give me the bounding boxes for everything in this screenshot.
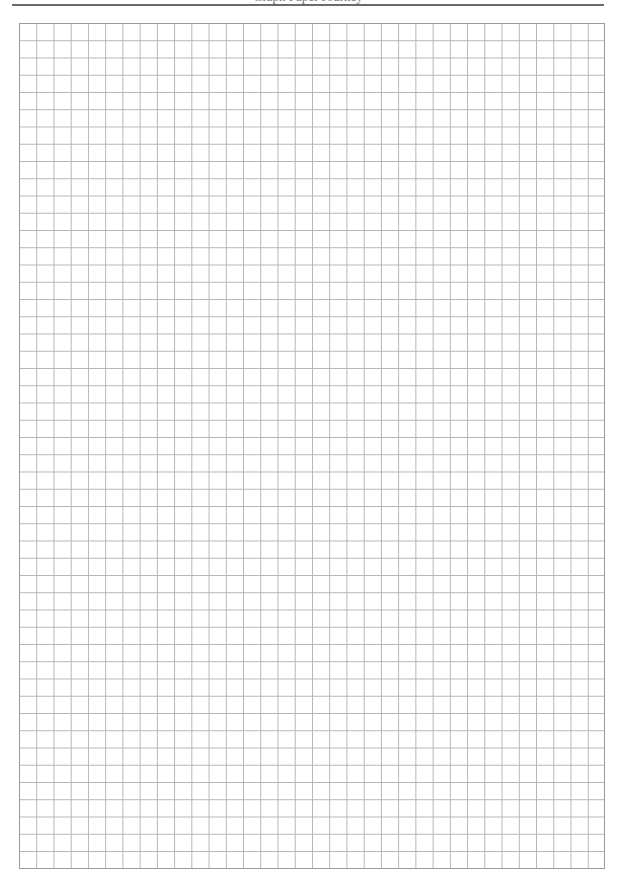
- graph-paper-grid: [19, 23, 605, 869]
- header-divider: [12, 4, 604, 6]
- header-title: Graph Paper Journey: [12, 0, 604, 3]
